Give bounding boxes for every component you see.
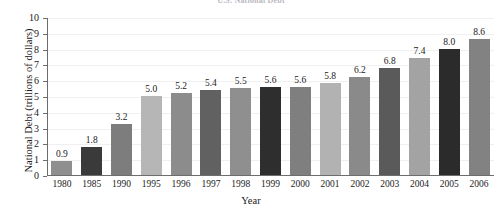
y-axis-tick-label: 9 — [17, 29, 39, 39]
bar-group: 5.62000 — [290, 18, 311, 175]
bar — [111, 124, 132, 175]
bar-group: 1.81985 — [81, 18, 102, 175]
x-axis-title: Year — [0, 195, 502, 206]
bar-value-label: 8.0 — [433, 37, 466, 47]
bar-value-label: 5.8 — [314, 71, 347, 81]
x-axis-tick-label: 2006 — [462, 179, 497, 189]
bar — [200, 90, 221, 175]
bar-value-label: 5.2 — [165, 81, 198, 91]
bar-group: 5.61999 — [260, 18, 281, 175]
bar-series: 0.919801.819853.219905.019955.219965.419… — [47, 18, 494, 175]
bar-group: 5.01995 — [141, 18, 162, 175]
y-axis-tick-label: 2 — [17, 139, 39, 149]
bar-value-label: 6.2 — [343, 65, 376, 75]
national-debt-bar-chart: U.S. National Debt National Debt (trilli… — [0, 0, 502, 215]
bar-group: 6.82003 — [379, 18, 400, 175]
bar-group: 0.91980 — [51, 18, 72, 175]
y-axis-tick-label: 0 — [17, 171, 39, 181]
bar-group: 5.21996 — [171, 18, 192, 175]
bar-value-label: 3.2 — [105, 112, 138, 122]
bar — [349, 77, 370, 175]
bar-group: 7.42004 — [409, 18, 430, 175]
bar-value-label: 5.6 — [254, 75, 287, 85]
y-axis-tick — [43, 176, 47, 177]
bar — [81, 147, 102, 175]
bar — [51, 161, 72, 175]
bar-value-label: 6.8 — [373, 56, 406, 66]
bar — [469, 39, 490, 175]
bar-value-label: 5.5 — [224, 76, 257, 86]
y-axis-tick-label: 4 — [17, 108, 39, 118]
y-axis-tick-label: 10 — [17, 13, 39, 23]
bar-group: 5.51998 — [230, 18, 251, 175]
y-axis-tick-label: 3 — [17, 124, 39, 134]
y-axis-tick-label: 1 — [17, 155, 39, 165]
y-axis-tick-label: 5 — [17, 92, 39, 102]
bar-value-label: 5.4 — [194, 78, 227, 88]
plot-area: 109876543210 0.919801.819853.219905.0199… — [47, 18, 494, 176]
y-axis-tick-label: 7 — [17, 60, 39, 70]
bar — [409, 58, 430, 175]
bar — [230, 88, 251, 175]
bar-group: 5.41997 — [200, 18, 221, 175]
bar-value-label: 5.6 — [284, 75, 317, 85]
bar-value-label: 0.9 — [45, 149, 78, 159]
bar — [290, 87, 311, 175]
bar — [439, 49, 460, 175]
bar-group: 3.21990 — [111, 18, 132, 175]
y-axis-tick-label: 6 — [17, 76, 39, 86]
bar-group: 8.02005 — [439, 18, 460, 175]
bar-value-label: 7.4 — [403, 46, 436, 56]
bar — [320, 83, 341, 175]
bar — [379, 68, 400, 175]
bar-value-label: 5.0 — [135, 84, 168, 94]
bar — [260, 87, 281, 175]
bar — [141, 96, 162, 175]
x-axis-line — [47, 175, 494, 176]
bar-group: 6.22002 — [349, 18, 370, 175]
bar — [171, 93, 192, 175]
bar-value-label: 1.8 — [75, 135, 108, 145]
bar-value-label: 8.6 — [463, 27, 496, 37]
y-axis-tick-label: 8 — [17, 45, 39, 55]
bar-group: 8.62006 — [469, 18, 490, 175]
bar-group: 5.82001 — [320, 18, 341, 175]
chart-title: U.S. National Debt — [0, 0, 502, 3]
